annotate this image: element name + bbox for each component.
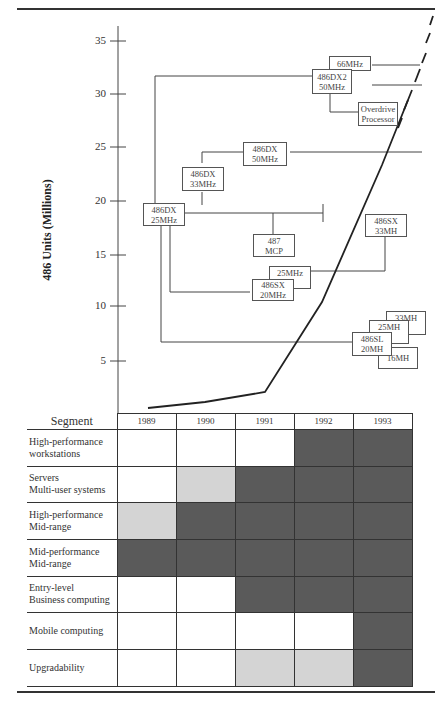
cell [294, 576, 353, 612]
row-label: High-performanceMid-range [27, 502, 117, 539]
cell [235, 429, 294, 466]
row-label: Mobile computing [27, 612, 117, 649]
segment-table: Segment 1989 1990 1991 1992 1993 High-pe… [27, 413, 413, 687]
node-486sl-20mh: 486SL20MH [352, 332, 392, 356]
year-header: 1992 [294, 414, 353, 430]
cell [235, 502, 294, 539]
cell [294, 539, 353, 576]
cell [176, 466, 235, 502]
cell [353, 612, 412, 649]
y-axis-label: 486 Units (Millions) [40, 150, 56, 310]
node-487-mcp: 487MCP [253, 234, 295, 257]
cell [176, 576, 235, 612]
cell [117, 649, 176, 686]
table-row: Upgradability [27, 649, 412, 686]
y-tick-5: 5 [76, 354, 106, 366]
table-header-row: Segment 1989 1990 1991 1992 1993 [27, 414, 412, 430]
year-header: 1991 [235, 414, 294, 430]
cell [117, 502, 176, 539]
cell [176, 502, 235, 539]
cell [235, 649, 294, 686]
cell [294, 649, 353, 686]
cell [294, 502, 353, 539]
y-tick-20: 20 [76, 194, 106, 206]
table-row: High-performanceMid-range [27, 502, 412, 539]
table-row: Mobile computing [27, 612, 412, 649]
table-row: Entry-levelBusiness computing [27, 576, 412, 612]
table-row: High-performanceworkstations [27, 429, 412, 466]
segment-header: Segment [27, 414, 117, 430]
node-486sx-20mhz: 486SX20MHz [252, 279, 294, 301]
node-486dx2-50mhz: 486DX250MHz [312, 69, 352, 94]
cell [176, 612, 235, 649]
cell [235, 612, 294, 649]
year-header: 1989 [117, 414, 176, 430]
y-tick-15: 15 [76, 248, 106, 260]
y-tick-25: 25 [76, 140, 106, 152]
y-tick-35: 35 [76, 34, 106, 46]
cell [294, 612, 353, 649]
cell [294, 466, 353, 502]
cell [235, 539, 294, 576]
cell [176, 429, 235, 466]
node-486dx-25mhz: 486DX25MHz [143, 203, 185, 226]
cell [117, 466, 176, 502]
year-header: 1990 [176, 414, 235, 430]
cell [353, 539, 412, 576]
cell [294, 429, 353, 466]
node-486dx-33mhz: 486DX33MHz [182, 167, 224, 191]
node-486dx-50mhz: 486DX50MHz [243, 142, 287, 166]
row-label: High-performanceworkstations [27, 429, 117, 466]
cell [353, 576, 412, 612]
row-label: Entry-levelBusiness computing [27, 576, 117, 612]
cell [176, 539, 235, 576]
row-label: Mid-performanceMid-range [27, 539, 117, 576]
y-tick-10: 10 [76, 299, 106, 311]
cell [235, 466, 294, 502]
cell [117, 429, 176, 466]
year-header: 1993 [353, 414, 412, 430]
cell [117, 576, 176, 612]
cell [117, 539, 176, 576]
y-tick-30: 30 [76, 87, 106, 99]
cell [353, 502, 412, 539]
cell [353, 649, 412, 686]
cell [353, 429, 412, 466]
cell [176, 649, 235, 686]
table-row: ServersMulti-user systems [27, 466, 412, 502]
cell [235, 576, 294, 612]
row-label: ServersMulti-user systems [27, 466, 117, 502]
table-row: Mid-performanceMid-range [27, 539, 412, 576]
node-486sx-33mh: 486SX33MH [365, 214, 407, 237]
row-label: Upgradability [27, 649, 117, 686]
cell [117, 612, 176, 649]
cell [353, 466, 412, 502]
node-overdrive-processor: OverdriveProcessor [358, 102, 398, 126]
